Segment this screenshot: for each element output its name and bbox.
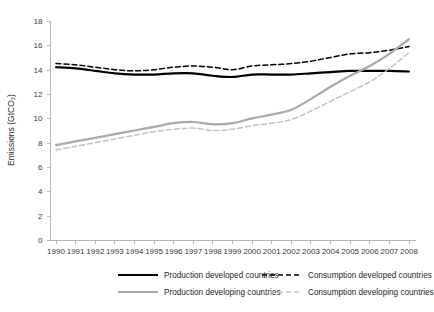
x-tick-label: 2008	[400, 247, 418, 256]
chart-canvas: Emissions (GtCO₂) 024681012141618 199019…	[0, 0, 434, 312]
series-lines	[56, 39, 409, 150]
x-tick-label: 1999	[224, 247, 242, 256]
x-tick-label: 1991	[67, 247, 85, 256]
x-tick-label: 2006	[361, 247, 379, 256]
legend-label: Production developed countries	[164, 271, 279, 280]
x-tick-label: 1998	[204, 247, 222, 256]
x-tick-label: 2000	[243, 247, 261, 256]
series-line-cons_developed	[56, 47, 409, 71]
x-tick-label: 1995	[145, 247, 163, 256]
x-axis-ticks: 1990199119921993199419951996199719981999…	[47, 240, 418, 256]
legend-item: Consumption developing countries	[262, 288, 434, 297]
y-tick-label: 6	[38, 163, 43, 172]
y-tick-label: 8	[38, 139, 43, 148]
x-tick-label: 2007	[380, 247, 398, 256]
y-axis-title: Emissions (GtCO₂)	[6, 94, 16, 166]
x-tick-label: 1992	[86, 247, 104, 256]
y-axis-ticks: 024681012141618	[34, 17, 51, 245]
y-tick-label: 2	[38, 212, 43, 221]
chart-legend: Production developed countriesConsumptio…	[118, 271, 434, 297]
y-tick-label: 12	[34, 90, 43, 99]
legend-item: Consumption developed countries	[262, 271, 432, 280]
y-tick-label: 16	[34, 41, 43, 50]
x-tick-label: 1990	[47, 247, 65, 256]
x-tick-label: 1994	[126, 247, 144, 256]
x-tick-label: 2005	[341, 247, 359, 256]
y-tick-label: 0	[38, 236, 43, 245]
x-tick-label: 1993	[106, 247, 124, 256]
legend-item: Production developed countries	[118, 271, 279, 280]
y-axis-title-text: Emissions (GtCO₂)	[6, 94, 16, 166]
legend-label: Consumption developing countries	[308, 288, 434, 297]
y-tick-label: 10	[34, 114, 43, 123]
legend-label: Consumption developed countries	[308, 271, 432, 280]
x-tick-label: 1997	[184, 247, 202, 256]
x-tick-label: 2003	[302, 247, 320, 256]
x-tick-label: 2002	[282, 247, 300, 256]
y-tick-label: 14	[34, 66, 43, 75]
x-tick-label: 2004	[322, 247, 340, 256]
x-tick-label: 2001	[263, 247, 281, 256]
legend-item: Production developing countries	[118, 288, 281, 297]
y-tick-label: 4	[38, 187, 43, 196]
emissions-line-chart: Emissions (GtCO₂) 024681012141618 199019…	[0, 0, 434, 312]
x-tick-label: 1996	[165, 247, 183, 256]
y-tick-label: 18	[34, 17, 43, 26]
